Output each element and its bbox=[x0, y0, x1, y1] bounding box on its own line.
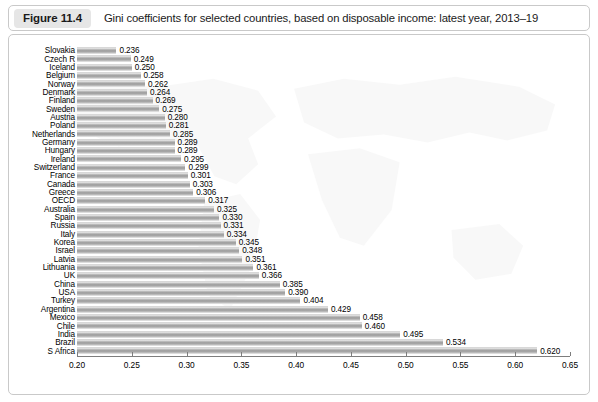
bar bbox=[77, 297, 300, 304]
bar-row: Poland0.281 bbox=[9, 121, 589, 129]
bar-row: Greece0.306 bbox=[9, 188, 589, 196]
bar bbox=[77, 306, 328, 313]
bar-row: France0.301 bbox=[9, 171, 589, 179]
bar-row: Turkey0.404 bbox=[9, 296, 589, 304]
bar-value-label: 0.460 bbox=[365, 321, 385, 330]
bar bbox=[77, 347, 537, 354]
figure-number-badge: Figure 11.4 bbox=[14, 9, 91, 28]
x-axis-tick-label: 0.50 bbox=[398, 360, 414, 370]
bar-row: Iceland0.250 bbox=[9, 63, 589, 71]
bar-value-label: 0.620 bbox=[540, 346, 560, 355]
bar bbox=[77, 256, 242, 263]
bar bbox=[77, 222, 221, 229]
bar-row: Hungary0.289 bbox=[9, 146, 589, 154]
bar bbox=[77, 281, 280, 288]
x-axis-tick-label: 0.25 bbox=[124, 360, 140, 370]
bar-value-label: 0.429 bbox=[331, 304, 351, 313]
bar bbox=[77, 247, 239, 254]
bar bbox=[77, 322, 362, 329]
bar-row: Czech R0.249 bbox=[9, 54, 589, 62]
bar bbox=[77, 231, 224, 238]
bar bbox=[77, 97, 153, 104]
bar bbox=[77, 47, 116, 54]
x-axis-tick-label: 0.45 bbox=[343, 360, 359, 370]
bar-row: Slovakia0.236 bbox=[9, 46, 589, 54]
figure-container: Figure 11.4 Gini coefficients for select… bbox=[0, 0, 598, 402]
bar bbox=[77, 206, 214, 213]
chart-panel: Slovakia0.236Czech R0.249Iceland0.250Bel… bbox=[8, 34, 590, 395]
bar bbox=[77, 172, 188, 179]
bar-row: Korea0.345 bbox=[9, 238, 589, 246]
x-axis-tick bbox=[406, 352, 407, 356]
figure-header: Figure 11.4 Gini coefficients for select… bbox=[8, 5, 590, 31]
bar-row: Sweden0.275 bbox=[9, 104, 589, 112]
bar-value-label: 0.495 bbox=[403, 329, 423, 338]
bar bbox=[77, 214, 219, 221]
bar-row: Latvia0.351 bbox=[9, 255, 589, 263]
x-axis-tick bbox=[351, 352, 352, 356]
bar-value-label: 0.534 bbox=[446, 338, 466, 347]
bar-row: OECD0.317 bbox=[9, 196, 589, 204]
bar bbox=[77, 239, 236, 246]
x-axis-tick-label: 0.35 bbox=[233, 360, 249, 370]
bar bbox=[77, 197, 205, 204]
bar-row: Denmark0.264 bbox=[9, 88, 589, 96]
x-axis-tick-label: 0.30 bbox=[179, 360, 195, 370]
bar-row: India0.495 bbox=[9, 330, 589, 338]
bar-row: Lithuania0.361 bbox=[9, 263, 589, 271]
bar-row: Spain0.330 bbox=[9, 213, 589, 221]
bar-row: Netherlands0.285 bbox=[9, 129, 589, 137]
x-axis-tick bbox=[296, 352, 297, 356]
bar-row: Germany0.289 bbox=[9, 138, 589, 146]
bar bbox=[77, 114, 165, 121]
bar bbox=[77, 339, 443, 346]
bar bbox=[77, 130, 170, 137]
bar-row: Mexico0.458 bbox=[9, 313, 589, 321]
bar-row: USA0.390 bbox=[9, 288, 589, 296]
bar-row: Ireland0.295 bbox=[9, 154, 589, 162]
bar-row: S Africa0.620 bbox=[9, 346, 589, 354]
bar-row: Finland0.269 bbox=[9, 96, 589, 104]
x-axis-tick bbox=[460, 352, 461, 356]
x-axis-tick-label: 0.65 bbox=[562, 360, 578, 370]
category-label: S Africa bbox=[11, 346, 75, 355]
bar bbox=[77, 155, 181, 162]
bar bbox=[77, 89, 147, 96]
x-axis-tick-label: 0.20 bbox=[69, 360, 85, 370]
bar-value-label: 0.366 bbox=[262, 271, 282, 280]
plot-area: Slovakia0.236Czech R0.249Iceland0.250Bel… bbox=[9, 35, 589, 394]
bar-row: Norway0.262 bbox=[9, 79, 589, 87]
bar bbox=[77, 55, 131, 62]
bar-value-label: 0.404 bbox=[303, 296, 323, 305]
x-axis-tick-label: 0.55 bbox=[452, 360, 468, 370]
bar bbox=[77, 272, 259, 279]
x-axis-tick bbox=[515, 352, 516, 356]
bar-row: Austria0.280 bbox=[9, 113, 589, 121]
figure-title: Gini coefficients for selected countries… bbox=[104, 12, 538, 24]
bar bbox=[77, 72, 141, 79]
bar-row: Canada0.303 bbox=[9, 180, 589, 188]
bar-row: Italy0.334 bbox=[9, 230, 589, 238]
bar-row: Israel0.348 bbox=[9, 246, 589, 254]
bar bbox=[77, 139, 175, 146]
bar bbox=[77, 164, 185, 171]
x-axis-tick-label: 0.40 bbox=[288, 360, 304, 370]
bar-row: Russia0.331 bbox=[9, 221, 589, 229]
bar bbox=[77, 189, 193, 196]
bar bbox=[77, 264, 253, 271]
bar-row: Argentina0.429 bbox=[9, 305, 589, 313]
bar bbox=[77, 181, 190, 188]
x-axis-tick bbox=[132, 352, 133, 356]
x-axis-line bbox=[77, 356, 570, 357]
bar-row: Australia0.325 bbox=[9, 205, 589, 213]
bar bbox=[77, 122, 166, 129]
bar bbox=[77, 289, 285, 296]
bar-rows: Slovakia0.236Czech R0.249Iceland0.250Bel… bbox=[9, 46, 589, 355]
bar bbox=[77, 147, 175, 154]
category-label-wrap: S Africa bbox=[9, 346, 75, 354]
bar-row: Belgium0.258 bbox=[9, 71, 589, 79]
x-axis-tick bbox=[187, 352, 188, 356]
x-axis-tick bbox=[77, 352, 78, 356]
x-axis-tick bbox=[570, 352, 571, 356]
x-axis-tick bbox=[241, 352, 242, 356]
